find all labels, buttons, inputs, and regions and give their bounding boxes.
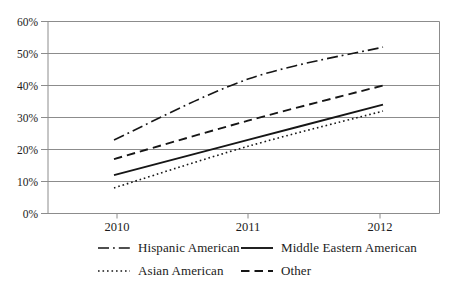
legend-item-other: Other [240,263,311,279]
legend-row-2: Asian American Other [97,262,453,279]
chart-legend: Hispanic American Middle Eastern America… [97,239,453,285]
y-tick-label: 60% [17,16,39,28]
y-tick-label: 30% [17,112,39,124]
series-line-other [114,86,383,160]
dashdot-line-icon [97,241,131,254]
legend-row-1: Hispanic American Middle Eastern America… [97,239,453,256]
y-tick-label: 40% [17,80,39,92]
legend-item-asian-american: Asian American [97,263,240,279]
line-chart-figure: 0%10%20%30%40%50%60%201020112012 Hispani… [0,0,456,285]
y-tick-label: 50% [17,48,39,60]
x-tick-label: 2012 [368,220,393,234]
dotted-line-icon [97,264,131,277]
legend-label-asian-american: Asian American [138,263,224,279]
y-tick-label: 0% [23,208,39,220]
plot-area: 0%10%20%30%40%50%60%201020112012 [0,0,456,234]
series-line-middle-eastern-american [114,105,383,175]
legend-label-hispanic-american: Hispanic American [138,240,240,256]
legend-label-other: Other [281,263,311,279]
dashed-line-icon [240,264,274,277]
x-tick-label: 2010 [105,220,130,234]
legend-label-middle-eastern-american: Middle Eastern American [281,240,417,256]
y-tick-label: 20% [17,144,39,156]
solid-line-icon [240,241,274,254]
series-line-hispanic-american [114,47,383,140]
legend-item-hispanic-american: Hispanic American [97,240,240,256]
x-tick-label: 2011 [236,220,261,234]
y-tick-label: 10% [17,176,39,188]
legend-item-middle-eastern-american: Middle Eastern American [240,240,417,256]
